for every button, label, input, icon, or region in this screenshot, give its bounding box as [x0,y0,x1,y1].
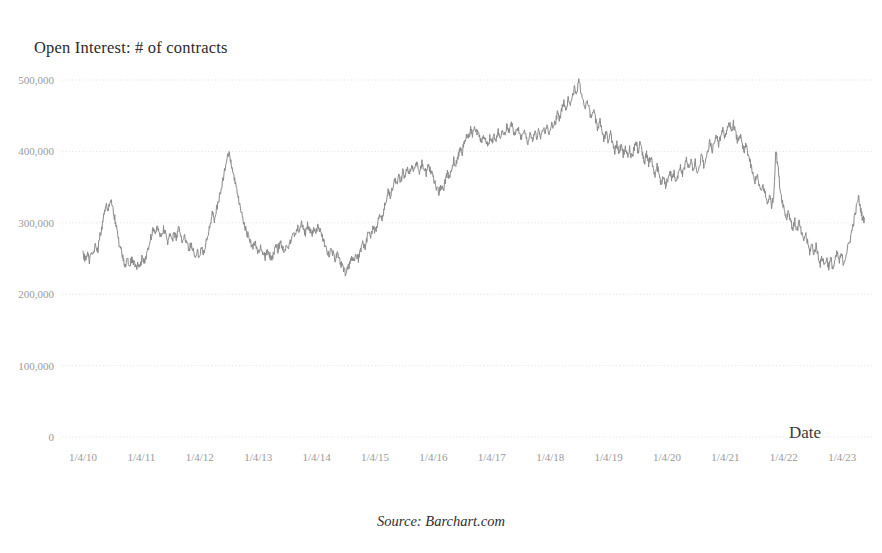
gridlines-group [62,80,874,437]
x-tick-label: 1/4/19 [595,451,624,463]
x-axis-tick-labels: 1/4/101/4/111/4/121/4/131/4/141/4/151/4/… [69,451,857,463]
x-axis-title: Date [789,423,821,443]
y-tick-label: 400,000 [18,145,54,157]
source-caption: Source: Barchart.com [0,513,882,530]
x-tick-label: 1/4/18 [536,451,565,463]
x-tick-label: 1/4/14 [303,451,332,463]
y-axis-tick-labels: 0100,000200,000300,000400,000500,000 [18,74,54,443]
y-tick-label: 200,000 [18,288,54,300]
x-tick-label: 1/4/15 [361,451,390,463]
x-tick-label: 1/4/16 [419,451,448,463]
y-tick-label: 100,000 [18,360,54,372]
line-chart-plot-area: 0100,000200,000300,000400,000500,000 1/4… [0,0,882,553]
y-tick-label: 500,000 [18,74,54,86]
x-tick-label: 1/4/13 [244,451,273,463]
x-tick-label: 1/4/11 [128,451,156,463]
x-tick-label: 1/4/21 [711,451,739,463]
x-tick-label: 1/4/23 [828,451,857,463]
x-tick-label: 1/4/12 [186,451,214,463]
y-tick-label: 0 [49,431,55,443]
open-interest-series-line [83,79,864,277]
x-tick-label: 1/4/22 [770,451,798,463]
y-tick-label: 300,000 [18,217,54,229]
x-tick-label: 1/4/20 [653,451,682,463]
chart-title: Open Interest: # of contracts [34,38,228,58]
x-tick-label: 1/4/17 [478,451,507,463]
chart-figure: Open Interest: # of contracts 0100,00020… [0,0,882,553]
x-tick-label: 1/4/10 [69,451,98,463]
